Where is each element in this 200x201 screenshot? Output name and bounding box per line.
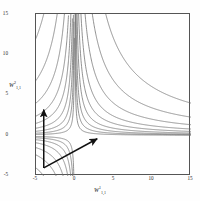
- y-tick-label-3: 0: [5, 132, 8, 137]
- y-tick-label-0: 15: [3, 11, 8, 16]
- plot-frame: [35, 13, 190, 175]
- diagonal-arrow: [44, 139, 97, 168]
- x-tick-label-3: 10: [144, 176, 158, 181]
- figure-root: 15 10 5 0 -5 -5 0 5 10 15 W21,1 W11,1: [0, 0, 200, 201]
- annotation-arrows: [36, 14, 191, 176]
- y-axis-label: W21,1: [9, 80, 21, 90]
- x-tick-label-4: 15: [183, 176, 197, 181]
- x-axis-label-sub: 1,1: [101, 190, 106, 195]
- y-tick-label-1: 10: [3, 51, 8, 56]
- x-tick-label-1: 0: [67, 176, 81, 181]
- x-axis-label: W11,1: [0, 185, 200, 195]
- x-tick-label-2: 5: [106, 176, 120, 181]
- x-tick-label-0: -5: [28, 176, 42, 181]
- y-tick-label-2: 5: [5, 91, 8, 96]
- y-axis-label-sub: 1,1: [16, 85, 21, 90]
- y-tick-label-4: -5: [4, 172, 8, 177]
